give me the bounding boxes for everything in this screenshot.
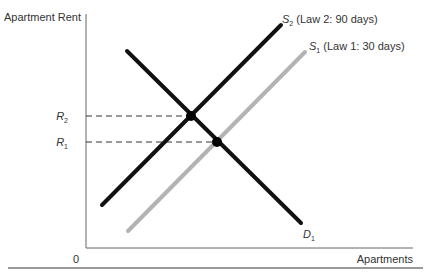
equilibrium-point-r1	[212, 137, 222, 147]
s2-label: S2 (Law 2: 90 days)	[282, 13, 378, 27]
y-axis-label: Apartment Rent	[4, 11, 81, 23]
r1-label: R1	[56, 136, 68, 150]
d1-label: D1	[303, 228, 315, 242]
s1-label: S1 (Law 1: 30 days)	[309, 40, 405, 54]
x-axis-label: Apartments	[357, 253, 414, 265]
supply-demand-diagram: Apartment Rent Apartments 0 R2 R1 S2 (La…	[0, 0, 429, 272]
demand-curve-d1	[127, 51, 301, 223]
equilibrium-point-r2	[186, 111, 196, 121]
origin-label: 0	[73, 253, 79, 265]
r2-label: R2	[56, 110, 68, 124]
